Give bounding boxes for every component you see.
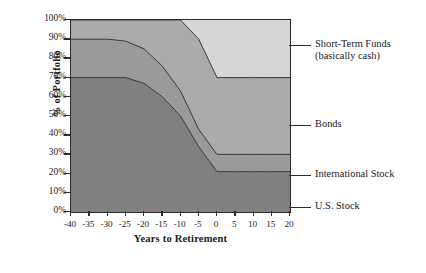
x-axis-title: Years to Retirement (70, 233, 291, 244)
y-tick-label: 90% (26, 33, 66, 42)
y-axis-tick-labels: 0%10%20%30%40%50%60%70%80%90%100% (22, 0, 66, 273)
x-tick-mark (143, 211, 144, 216)
y-tick-label: 40% (26, 129, 66, 138)
y-tick-label: 0% (26, 206, 66, 215)
legend-label: Short-Term Funds(basically cash) (315, 38, 391, 62)
x-tick-mark (88, 211, 89, 216)
y-tick-label: 60% (26, 91, 66, 100)
legend-leader-line-icon (289, 45, 311, 46)
y-tick-label: 10% (26, 187, 66, 196)
y-tick-label: 80% (26, 52, 66, 61)
chart-figure: % of Portfolio 0%10%20%30%40%50%60%70%80… (0, 0, 426, 273)
x-tick-mark (234, 211, 235, 216)
y-tick-label: 100% (26, 14, 66, 23)
x-axis-ticks (70, 211, 291, 216)
y-tick-label: 30% (26, 148, 66, 157)
y-tick-label: 20% (26, 168, 66, 177)
legend-label: U.S. Stock (315, 200, 360, 212)
y-tick-label: 50% (26, 110, 66, 119)
x-tick-mark (216, 211, 217, 216)
x-tick-mark (70, 211, 71, 216)
legend-leader-line-icon (289, 207, 311, 208)
x-tick-mark (125, 211, 126, 216)
x-axis-tick-labels: -40-35-30-25-20-15-10-505101520 (70, 219, 291, 233)
x-tick-mark (161, 211, 162, 216)
x-tick-mark (271, 211, 272, 216)
x-tick-mark (107, 211, 108, 216)
legend-label: International Stock (315, 168, 394, 180)
plot-area (70, 19, 291, 213)
legend-leader-line-icon (289, 125, 311, 126)
x-tick-mark (198, 211, 199, 216)
x-tick-mark (180, 211, 181, 216)
legend-label-line2: (basically cash) (315, 50, 391, 62)
legend-label: Bonds (315, 118, 342, 130)
chart-legend: Short-Term Funds(basically cash)BondsInt… (289, 0, 426, 273)
y-tick-label: 70% (26, 72, 66, 81)
stacked-area-svg (71, 20, 290, 212)
legend-leader-line-icon (289, 175, 311, 176)
x-tick-mark (253, 211, 254, 216)
